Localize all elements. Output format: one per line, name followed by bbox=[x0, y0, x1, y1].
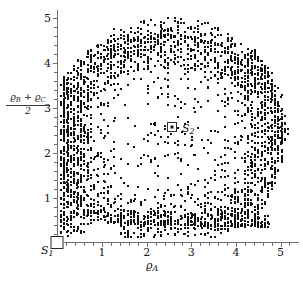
data-point bbox=[73, 199, 75, 201]
data-point bbox=[244, 213, 246, 215]
data-point bbox=[187, 53, 189, 55]
data-point bbox=[63, 175, 65, 177]
data-point bbox=[187, 78, 189, 80]
data-point bbox=[103, 161, 105, 163]
data-point bbox=[147, 88, 149, 90]
data-point bbox=[93, 188, 95, 190]
data-point bbox=[271, 127, 273, 129]
data-point bbox=[83, 156, 85, 158]
data-point bbox=[97, 52, 99, 54]
data-point bbox=[244, 188, 246, 190]
data-point bbox=[251, 146, 253, 148]
data-point bbox=[174, 58, 176, 60]
data-point bbox=[221, 45, 223, 47]
data-point bbox=[247, 90, 249, 92]
data-point bbox=[257, 93, 259, 95]
data-point bbox=[100, 192, 102, 194]
data-point bbox=[67, 118, 69, 120]
data-point bbox=[90, 149, 92, 151]
data-point bbox=[268, 223, 270, 225]
data-point bbox=[107, 49, 109, 51]
data-point bbox=[130, 47, 132, 49]
data-point bbox=[90, 189, 92, 191]
data-point bbox=[124, 42, 126, 44]
data-point bbox=[104, 135, 106, 137]
data-point bbox=[113, 83, 115, 85]
data-point bbox=[260, 164, 262, 166]
data-point bbox=[197, 168, 199, 170]
data-point bbox=[214, 174, 216, 176]
data-point bbox=[160, 231, 162, 233]
data-point bbox=[231, 210, 233, 212]
data-point bbox=[210, 48, 212, 50]
data-point bbox=[83, 130, 85, 132]
data-point bbox=[154, 158, 156, 160]
data-point bbox=[63, 112, 65, 114]
data-point bbox=[80, 92, 82, 94]
data-point bbox=[267, 122, 269, 124]
data-point bbox=[200, 225, 202, 227]
data-point bbox=[217, 198, 219, 200]
data-point bbox=[67, 98, 69, 100]
data-point bbox=[157, 41, 159, 43]
data-point bbox=[77, 115, 79, 117]
data-point bbox=[157, 36, 159, 38]
data-point bbox=[264, 215, 266, 217]
data-point bbox=[184, 144, 186, 146]
data-point bbox=[227, 225, 229, 227]
data-point bbox=[244, 85, 246, 87]
data-point bbox=[181, 195, 183, 197]
data-point bbox=[104, 211, 106, 213]
data-point bbox=[261, 117, 263, 119]
data-point bbox=[200, 53, 202, 55]
data-point bbox=[217, 223, 219, 225]
data-point bbox=[77, 111, 79, 113]
data-point bbox=[157, 97, 159, 99]
data-point bbox=[103, 166, 105, 168]
data-point bbox=[130, 223, 132, 225]
data-point bbox=[147, 24, 149, 26]
data-point bbox=[123, 35, 125, 37]
data-point bbox=[264, 168, 266, 170]
data-point bbox=[193, 31, 195, 33]
data-point bbox=[241, 120, 243, 122]
data-point bbox=[83, 128, 85, 130]
data-point bbox=[254, 225, 256, 227]
data-point bbox=[80, 69, 82, 71]
data-point bbox=[187, 186, 189, 188]
data-point bbox=[257, 69, 259, 71]
data-point bbox=[174, 63, 176, 65]
data-point bbox=[67, 96, 69, 98]
data-point bbox=[257, 111, 259, 113]
data-point bbox=[180, 173, 182, 175]
data-point bbox=[143, 215, 145, 217]
x-tick bbox=[165, 243, 166, 246]
data-point bbox=[277, 169, 279, 171]
data-point bbox=[67, 144, 69, 146]
data-point bbox=[140, 56, 142, 58]
data-point bbox=[264, 201, 266, 203]
data-point bbox=[284, 139, 286, 141]
data-point bbox=[241, 51, 243, 53]
data-point bbox=[187, 64, 189, 66]
data-point bbox=[257, 169, 259, 171]
data-point bbox=[237, 84, 239, 86]
data-point bbox=[221, 169, 223, 171]
data-point bbox=[211, 216, 213, 218]
data-point bbox=[284, 115, 286, 117]
data-point bbox=[63, 119, 65, 121]
data-point bbox=[73, 165, 75, 167]
data-point bbox=[80, 197, 82, 199]
data-point bbox=[277, 130, 279, 132]
data-point bbox=[67, 175, 69, 177]
data-point bbox=[147, 188, 149, 190]
data-point bbox=[76, 70, 78, 72]
data-point bbox=[257, 96, 259, 98]
data-point bbox=[237, 181, 239, 183]
data-point bbox=[63, 89, 65, 91]
data-point bbox=[87, 205, 89, 207]
data-point bbox=[140, 226, 142, 228]
data-point bbox=[66, 181, 68, 183]
data-point bbox=[251, 125, 253, 127]
data-point bbox=[97, 175, 99, 177]
